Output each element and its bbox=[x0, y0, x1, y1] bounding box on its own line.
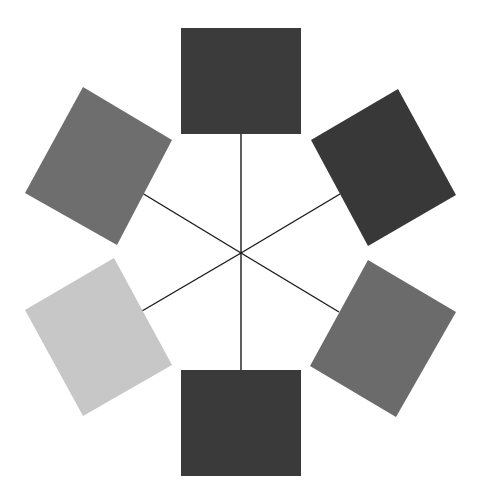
node-box-upper-left bbox=[25, 87, 172, 245]
spoke-line-upper-left bbox=[142, 193, 241, 253]
node-box-lower-left bbox=[25, 258, 172, 416]
spoke-line-upper-right bbox=[241, 194, 340, 253]
node-box-upper-right bbox=[311, 89, 456, 246]
node-box-lower-right bbox=[310, 260, 456, 417]
hub-spoke-diagram bbox=[0, 0, 480, 501]
node-box-top bbox=[181, 28, 301, 134]
spoke-line-lower-left bbox=[142, 253, 241, 311]
spoke-lines bbox=[142, 134, 340, 370]
node-box-bottom bbox=[181, 370, 301, 476]
spoke-line-lower-right bbox=[241, 253, 339, 312]
